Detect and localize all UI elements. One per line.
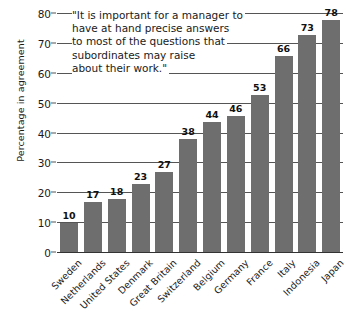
bar[interactable]: [251, 95, 269, 253]
bar[interactable]: [227, 116, 245, 253]
bar-slot: 73: [295, 14, 319, 253]
bar-value-label: 27: [152, 159, 176, 170]
bar-value-label: 17: [81, 189, 105, 200]
y-axis-tick-label: 80: [38, 8, 51, 20]
bar[interactable]: [60, 223, 78, 253]
quote-line: "It is important for a manager to: [72, 9, 245, 22]
quote-line: about their work.": [72, 62, 169, 75]
y-axis-tick-mark: [51, 162, 56, 163]
bar-value-label: 10: [57, 210, 81, 221]
y-axis-tick-mark: [51, 132, 56, 133]
bar-value-label: 44: [200, 109, 224, 120]
quote-line: subordinates may raise: [72, 49, 197, 62]
bar-value-label: 46: [224, 103, 248, 114]
bar-value-label: 38: [176, 126, 200, 137]
quote-annotation: "It is important for a manager tohave at…: [72, 9, 247, 75]
bar-slot: 78: [319, 14, 343, 253]
y-axis-title: Percentage in agreement: [15, 11, 26, 191]
y-axis-tick-label: 40: [38, 128, 51, 140]
y-axis-tick-label: 0: [44, 247, 51, 259]
y-axis-tick-mark: [51, 192, 56, 193]
bar-value-label: 66: [272, 43, 296, 54]
y-axis-tick-mark: [51, 252, 56, 253]
quote-line: to most of the questions that: [72, 35, 227, 48]
y-axis-tick-label: 70: [38, 38, 51, 50]
y-axis-tick-label: 10: [38, 217, 51, 229]
y-axis-tick-mark: [51, 222, 56, 223]
bar[interactable]: [298, 35, 316, 253]
bar-value-label: 18: [105, 186, 129, 197]
bar-slot: 66: [272, 14, 296, 253]
bar[interactable]: [203, 122, 221, 253]
bar-slot: 53: [248, 14, 272, 253]
bar[interactable]: [132, 184, 150, 253]
x-axis-category-label: Japan: [319, 257, 346, 284]
y-axis-tick-mark: [51, 102, 56, 103]
y-axis-tick-mark: [51, 72, 56, 73]
bar[interactable]: [179, 139, 197, 253]
bar[interactable]: [322, 20, 340, 253]
bar[interactable]: [84, 202, 102, 253]
bar-value-label: 23: [129, 171, 153, 182]
quote-line: have at hand precise answers: [72, 22, 231, 35]
bar-value-label: 53: [248, 82, 272, 93]
bar-value-label: 73: [295, 22, 319, 33]
bar[interactable]: [155, 172, 173, 253]
x-axis-line: [57, 252, 343, 253]
bar-chart: Percentage in agreement 0102030405060708…: [0, 0, 351, 312]
y-axis-tick-label: 30: [38, 157, 51, 169]
bar[interactable]: [275, 56, 293, 253]
y-axis-tick-label: 60: [38, 68, 51, 80]
y-axis-tick-mark: [51, 42, 56, 43]
y-axis-tick-label: 50: [38, 98, 51, 110]
y-axis-tick-label: 20: [38, 187, 51, 199]
bar-value-label: 78: [319, 7, 343, 18]
bar[interactable]: [108, 199, 126, 253]
y-axis-tick-mark: [51, 13, 56, 14]
